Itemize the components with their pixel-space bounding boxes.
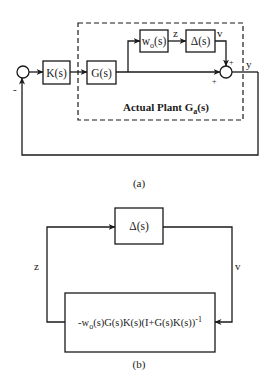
sum-top-plus-sign: + <box>229 58 234 67</box>
uncertainty-label-b: Δ(s) <box>129 220 149 233</box>
figure-a: - K(s) G(s) wo(s) z Δ(s) v + + y <box>13 23 258 190</box>
block-diagram-canvas: - K(s) G(s) wo(s) z Δ(s) v + + y <box>0 0 278 379</box>
figure-b-caption: (b) <box>133 358 146 371</box>
v-signal-label: v <box>217 27 223 39</box>
v-signal-label-b: v <box>235 260 241 272</box>
sum-left-plus-sign: + <box>212 77 217 86</box>
figure-a-caption: (a) <box>133 177 146 190</box>
figure-b: Δ(s) z v -wo(s)G(s)K(s)(I+G(s)K(s))-1 (b… <box>34 208 241 371</box>
weight-branch-arrow <box>128 41 140 72</box>
z-signal-label: z <box>173 27 178 39</box>
controller-label: K(s) <box>46 67 67 80</box>
plant-label: G(s) <box>91 67 112 80</box>
uncertainty-label: Δ(s) <box>191 35 211 48</box>
uncertainty-summing-junction <box>220 66 232 78</box>
output-y-label: y <box>246 58 252 70</box>
actual-plant-label: Actual Plant Ga(s) <box>123 101 209 116</box>
v-signal-arrow <box>215 41 226 66</box>
feedback-minus-sign: - <box>13 83 17 95</box>
z-signal-label-b: z <box>34 260 39 272</box>
feedback-summing-junction <box>17 66 29 78</box>
